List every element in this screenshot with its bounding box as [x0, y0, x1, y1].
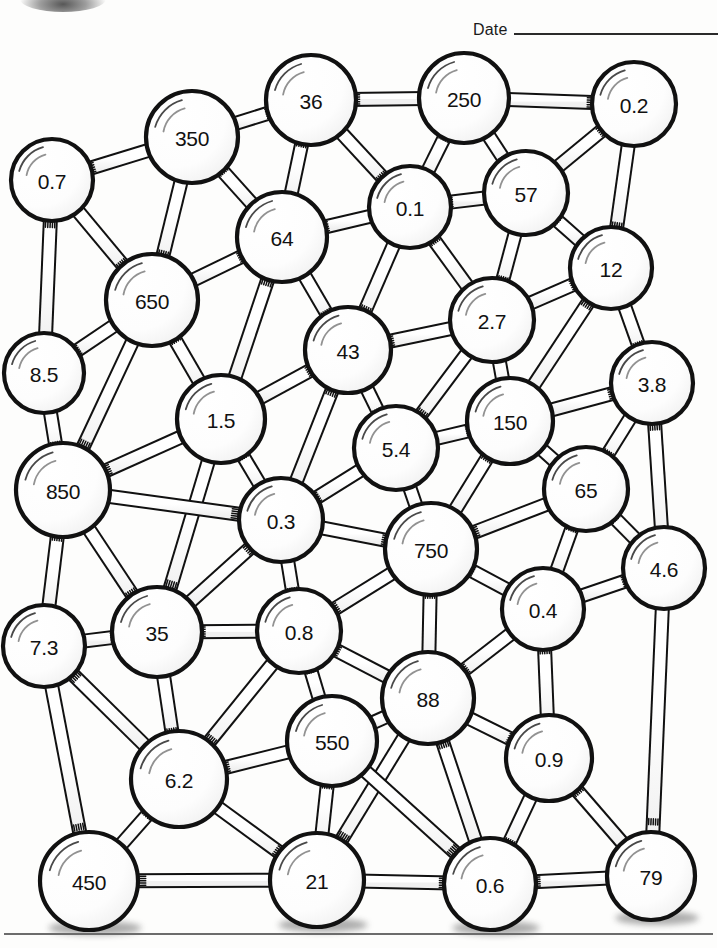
network-edge	[459, 630, 516, 675]
node-label: 88	[417, 688, 440, 711]
network-node-79[interactable]: 79	[607, 832, 695, 920]
node-label: 0.2	[620, 94, 648, 117]
node-label: 8.5	[30, 363, 58, 386]
network-edge	[417, 348, 471, 420]
network-node-0-1[interactable]: 0.1	[369, 166, 451, 248]
network-edge	[425, 588, 434, 659]
network-node-1-5[interactable]: 1.5	[177, 375, 265, 463]
node-label: 36	[300, 90, 323, 113]
network-edge	[572, 785, 626, 848]
network-node-0-3[interactable]: 0.3	[239, 478, 323, 562]
network-edge	[294, 383, 337, 487]
network-node-0-2[interactable]: 0.2	[592, 62, 676, 146]
network-edge	[74, 206, 128, 270]
network-edge	[79, 335, 135, 453]
node-label: 750	[414, 539, 448, 562]
node-label: 350	[175, 127, 209, 150]
node-layer: 0.7350362500.20.15764650122.7438.53.81.5…	[3, 53, 705, 930]
network-node-3-8[interactable]: 3.8	[611, 342, 693, 424]
network-edge	[451, 452, 492, 516]
network-edge	[545, 389, 619, 412]
network-edge	[553, 125, 607, 170]
network-edge	[219, 750, 295, 772]
network-node-450[interactable]: 450	[40, 832, 138, 930]
network-edge	[360, 238, 396, 317]
network-node-5-4[interactable]: 5.4	[354, 406, 438, 490]
node-label: 3.8	[638, 373, 666, 396]
node-label: 12	[600, 258, 623, 281]
network-node-550[interactable]: 550	[287, 696, 377, 786]
node-label: 65	[575, 479, 598, 502]
network-edge	[649, 602, 663, 839]
node-label: 250	[447, 88, 481, 111]
node-label: 64	[271, 227, 294, 250]
network-node-8-5[interactable]: 8.5	[4, 333, 84, 413]
network-edge	[195, 627, 264, 636]
network-node-12[interactable]: 12	[570, 227, 652, 309]
network-node-750[interactable]: 750	[385, 503, 477, 595]
network-node-36[interactable]: 36	[266, 55, 356, 145]
network-edge	[329, 570, 398, 614]
network-node-350[interactable]: 350	[146, 91, 238, 183]
network-node-0-6[interactable]: 0.6	[444, 838, 536, 930]
network-edge	[438, 735, 477, 847]
node-label: 450	[72, 871, 106, 894]
node-label: 150	[493, 411, 527, 434]
node-label: 5.4	[382, 438, 411, 461]
network-node-64[interactable]: 64	[237, 192, 327, 282]
network-edge	[357, 878, 451, 887]
network-node-0-4[interactable]: 0.4	[502, 568, 584, 650]
network-edge	[85, 148, 155, 173]
network-edge	[467, 502, 553, 538]
network-node-21[interactable]: 21	[270, 833, 364, 927]
network-edge	[166, 454, 210, 595]
network-node-65[interactable]: 65	[544, 447, 628, 531]
node-label: 21	[306, 870, 329, 893]
network-node-0-8[interactable]: 0.8	[257, 589, 341, 673]
network-edge	[349, 95, 426, 104]
node-label: 57	[515, 183, 538, 206]
network-node-4-6[interactable]: 4.6	[623, 527, 705, 609]
network-node-650[interactable]: 650	[106, 254, 198, 346]
network-node-850[interactable]: 850	[16, 443, 110, 537]
footer-rule	[4, 933, 713, 935]
network-edge	[330, 645, 393, 680]
network-node-0-9[interactable]: 0.9	[506, 715, 592, 801]
network-node-6-2[interactable]: 6.2	[131, 731, 227, 827]
network-edge	[383, 327, 457, 346]
network-edge	[254, 365, 317, 401]
node-label: 0.7	[38, 170, 66, 193]
node-label: 0.8	[285, 621, 313, 644]
network-node-150[interactable]: 150	[467, 378, 553, 464]
network-edge	[315, 527, 392, 546]
network-edge	[187, 251, 248, 283]
network-edge	[212, 803, 285, 857]
node-label: 79	[640, 866, 663, 889]
network-node-35[interactable]: 35	[112, 587, 202, 677]
network-node-88[interactable]: 88	[382, 652, 474, 744]
network-node-250[interactable]: 250	[419, 53, 509, 143]
network-edge	[540, 643, 549, 722]
network-edge	[163, 670, 177, 739]
network-edge	[502, 98, 599, 107]
node-label: 0.3	[267, 510, 295, 533]
network-edge	[529, 877, 614, 886]
network-edge	[99, 434, 187, 475]
network-edge	[205, 658, 277, 747]
network-node-7-3[interactable]: 7.3	[3, 605, 85, 687]
network-edge	[337, 128, 387, 182]
node-label: 2.7	[478, 310, 506, 333]
node-label: 1.5	[207, 409, 235, 432]
network-edge	[50, 679, 83, 839]
network-node-0-7[interactable]: 0.7	[11, 139, 93, 221]
network-node-2-7[interactable]: 2.7	[450, 278, 534, 362]
node-label: 550	[315, 731, 349, 754]
node-label: 0.9	[535, 748, 563, 771]
network-edge	[429, 235, 472, 292]
node-label: 6.2	[165, 769, 193, 792]
ground-shadow-layer	[48, 911, 698, 935]
network-node-57[interactable]: 57	[484, 151, 568, 235]
network-node-43[interactable]: 43	[305, 307, 391, 393]
